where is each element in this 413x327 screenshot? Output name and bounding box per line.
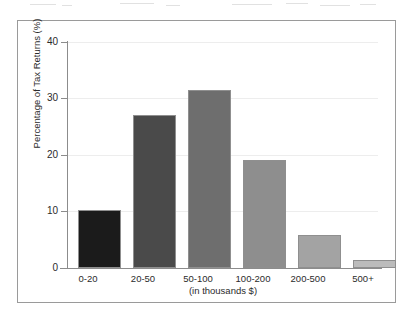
scan-artifact (62, 5, 72, 6)
y-axis-title: Percentage of Tax Returns (%) (31, 0, 42, 179)
scan-artifact (286, 3, 308, 4)
scan-artifact (320, 5, 350, 6)
scan-artifact (120, 3, 154, 4)
figure-container: 40 30 20 10 0 Percentage of Tax Returns … (0, 0, 413, 327)
x-axis-title: (in thousands $) (68, 285, 378, 296)
bar-500plus (353, 260, 396, 268)
x-tick-label-500plus: 500+ (333, 273, 393, 284)
bar-50-100 (188, 90, 231, 268)
bar-100-200 (243, 160, 286, 268)
scan-artifact (166, 5, 180, 6)
y-tick-label-0: 0 (12, 263, 58, 273)
x-tick-label-50-100: 50-100 (168, 273, 228, 284)
x-tick-label-100-200: 100-200 (223, 273, 283, 284)
x-tick-label-20-50: 20-50 (113, 273, 173, 284)
x-tick-label-0-20: 0-20 (58, 273, 118, 284)
scan-artifact (360, 4, 376, 5)
x-axis-line (60, 268, 382, 269)
scan-artifact (232, 4, 272, 5)
bars-group (68, 42, 378, 268)
bar-0-20 (78, 210, 121, 268)
x-tick-label-200-500: 200-500 (278, 273, 338, 284)
bar-20-50 (133, 115, 176, 268)
bar-200-500 (298, 235, 341, 268)
y-tick-label-10: 10 (12, 206, 58, 216)
